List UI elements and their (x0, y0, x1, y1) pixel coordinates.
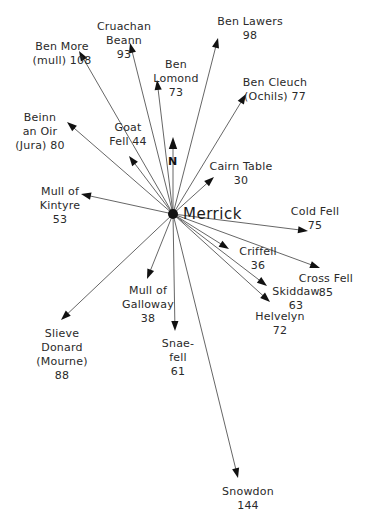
label-line: (Ochils) 77 (243, 90, 307, 104)
label-line: 144 (222, 499, 274, 513)
label-line: 38 (122, 312, 174, 326)
merrick-center-dot-icon (168, 209, 178, 219)
label-line: Beinn (15, 111, 64, 125)
destination-label-cruachan: CruachanBeann93 (97, 20, 151, 62)
destination-label-mull-of-kintyre: Mull ofKintyre53 (40, 185, 81, 227)
label-line: Donard (36, 341, 87, 355)
label-line: Criffell (239, 245, 276, 259)
bearing-line-goat-fell (129, 156, 173, 214)
merrick-bearing-diagram: Ben More(mull) 108CruachanBeann93BenLomo… (0, 0, 372, 528)
label-line: 53 (40, 213, 81, 227)
arrowhead-icon (257, 277, 267, 286)
destination-label-goat-fell: GoatFell 44 (109, 121, 147, 149)
destination-label-snaefell: Snae-fell61 (162, 337, 194, 379)
arrowhead-icon (232, 467, 239, 478)
label-line: 98 (217, 29, 283, 43)
label-line: an Oir (15, 125, 64, 139)
arrowhead-icon (147, 268, 154, 279)
destination-label-cairn-table: Cairn Table30 (210, 160, 273, 188)
destination-label-criffell: Criffell36 (239, 245, 276, 273)
destination-label-helvelyn: Helvelyn72 (255, 310, 305, 338)
label-line: (Mourne) (36, 355, 87, 369)
destination-label-snowdon: Snowdon144 (222, 485, 274, 513)
center-label: Merrick (183, 206, 242, 222)
destination-label-ben-cleuch: Ben Cleuch(Ochils) 77 (243, 76, 307, 104)
label-line: Ben (153, 58, 198, 72)
label-line: 61 (162, 365, 194, 379)
label-line: Ben Cleuch (243, 76, 307, 90)
label-line: 30 (210, 174, 273, 188)
label-line: Mull of (122, 284, 174, 298)
label-line: Goat (109, 121, 147, 135)
label-line: Kintyre (40, 199, 81, 213)
label-line: Snae- (162, 337, 194, 351)
bearing-line-ben-cleuch (173, 94, 246, 214)
bearing-line-mull-of-galloway (147, 214, 173, 279)
label-line: Fell 44 (109, 135, 147, 149)
label-line: Galloway (122, 298, 174, 312)
destination-label-slieve-donard: SlieveDonard(Mourne)88 (36, 327, 87, 383)
label-line: Ben More (33, 40, 92, 54)
label-line: (mull) 108 (33, 54, 92, 68)
arrowhead-icon (309, 261, 320, 268)
label-line: (Jura) 80 (15, 139, 64, 153)
arrowhead-icon (81, 193, 92, 200)
label-line: Lomond (153, 72, 198, 86)
label-line: 93 (97, 48, 151, 62)
label-line: Snowdon (222, 485, 274, 499)
destination-label-ben-lamond: BenLomond73 (153, 58, 198, 100)
label-line: Cold Fell (291, 205, 339, 219)
destination-label-ben-more: Ben More(mull) 108 (33, 40, 92, 68)
label-line: Helvelyn (255, 310, 305, 324)
label-line: Cross Fell (299, 272, 353, 286)
destination-label-beinn-an-oir: Beinnan Oir(Jura) 80 (15, 111, 64, 153)
label-line: 75 (291, 219, 339, 233)
label-line: Beann (97, 34, 151, 48)
label-line: Ben Lawers (217, 15, 283, 29)
label-line: Mull of (40, 185, 81, 199)
destination-label-skiddaw: Skiddaw63 (272, 285, 320, 313)
arrowhead-icon (219, 241, 229, 249)
label-line: Slieve (36, 327, 87, 341)
destination-label-mull-of-galloway: Mull ofGalloway38 (122, 284, 174, 326)
label-line: 72 (255, 324, 305, 338)
destination-label-cold-fell: Cold Fell75 (291, 205, 339, 233)
north-label: N (168, 155, 177, 169)
label-line: fell (162, 351, 194, 365)
arrowhead-icon (129, 156, 138, 166)
label-line: Cruachan (97, 20, 151, 34)
label-line: 88 (36, 369, 87, 383)
label-line: Skiddaw (272, 285, 320, 299)
label-line: Cairn Table (210, 160, 273, 174)
label-line: 36 (239, 259, 276, 273)
destination-label-ben-lawers: Ben Lawers98 (217, 15, 283, 43)
label-line: 73 (153, 86, 198, 100)
